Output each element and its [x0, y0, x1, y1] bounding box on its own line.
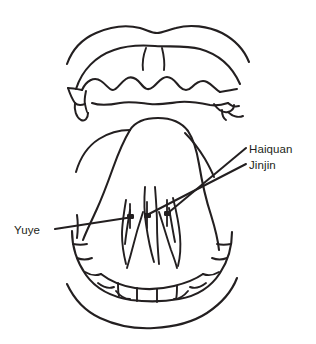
lower-tooth-divider-r3	[203, 272, 219, 275]
lower-tooth-divider-l4	[98, 283, 114, 288]
upper-left-molar-outline	[68, 88, 82, 90]
upper-left-molar-inner-edge	[85, 104, 88, 113]
yuye-target-tick	[77, 215, 78, 238]
floor-of-mouth-left-fold	[76, 130, 130, 172]
lower-teeth-outer-arch	[72, 231, 232, 301]
upper-right-molar-outline	[220, 89, 237, 92]
upper-left-molar-divider-1	[85, 91, 86, 104]
yuye-leader-line	[55, 217, 133, 229]
lower-tooth-divider-l1	[73, 244, 87, 245]
sublingual-vein-center-right	[155, 187, 159, 264]
sublingual-acupoint-figure: Haiquan Jinjin Yuye	[0, 0, 316, 344]
upper-labial-frenulum-left	[143, 48, 146, 70]
mouth-anatomy-illustration	[0, 0, 316, 344]
label-jinjin: Jinjin	[249, 158, 276, 172]
lower-tooth-divider-r4	[190, 283, 206, 288]
sublingual-vein-left-lateral	[122, 200, 126, 264]
label-yuye: Yuye	[14, 223, 40, 237]
jinjin-leader-line	[147, 164, 246, 215]
lower-front-tooth-divider-4	[176, 286, 177, 299]
lower-teeth-incisal-edge	[101, 274, 203, 289]
label-haiquan: Haiquan	[249, 142, 293, 156]
lower-front-tooth-divider-1	[118, 283, 119, 296]
upper-lip-outer-contour	[67, 26, 249, 64]
lower-tooth-divider-r1	[217, 244, 231, 245]
sublingual-vein-center-left	[144, 187, 154, 262]
upper-labial-frenulum-right	[162, 48, 164, 70]
upper-teeth-biting-edge	[92, 102, 228, 106]
upper-right-molar-branch-b	[228, 112, 243, 117]
lower-lip-outer-contour	[67, 278, 237, 328]
upper-teeth-gum-line	[82, 77, 220, 92]
lower-tooth-divider-l2	[77, 258, 92, 260]
lower-tooth-divider-l3	[85, 272, 101, 275]
lower-tooth-divider-r2	[212, 258, 227, 260]
